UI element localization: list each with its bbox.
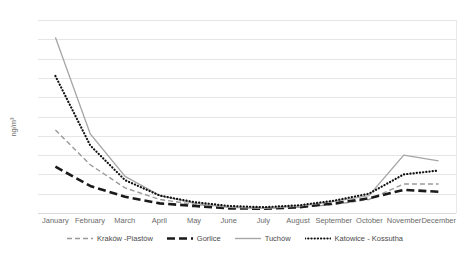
x-axis-tick-label: July [246, 215, 281, 229]
series-layer [38, 20, 456, 213]
x-axis-tick-label: March [107, 215, 142, 229]
series-line [55, 130, 438, 208]
y-axis-title: ng/m³ [9, 117, 18, 136]
x-axis-tick-label: October [352, 215, 387, 229]
x-axis-tick-label: January [38, 215, 73, 229]
series-line [55, 37, 438, 208]
legend-label: Katowice - Kossutha [335, 234, 403, 243]
x-axis-labels: JanuaryFebruaryMarchAprilMayJuneJulyAugu… [38, 215, 456, 229]
legend-label: Kraków -Piastów [97, 234, 153, 243]
legend-label: Tuchów [265, 234, 291, 243]
legend-swatch-icon [305, 235, 331, 242]
x-axis-tick-label: November [387, 215, 422, 229]
gridline [38, 213, 456, 214]
series-line [55, 76, 438, 207]
x-axis-tick-label: September [315, 215, 352, 229]
x-axis-tick-label: June [211, 215, 246, 229]
x-axis-tick-label: December [421, 215, 456, 229]
x-axis-tick-label: April [142, 215, 177, 229]
x-axis-tick-label: August [281, 215, 316, 229]
line-chart: ng/m³ JanuaryFebruaryMarchAprilMayJuneJu… [0, 0, 470, 253]
x-axis-tick-label: February [73, 215, 108, 229]
legend-item[interactable]: Gorlice [167, 234, 221, 243]
legend-swatch-icon [235, 235, 261, 242]
x-axis-tick-label: May [177, 215, 212, 229]
legend-item[interactable]: Kraków -Piastów [67, 234, 153, 243]
legend-label: Gorlice [197, 234, 221, 243]
chart-legend: Kraków -PiastówGorliceTuchówKatowice - K… [0, 234, 470, 243]
legend-swatch-icon [167, 235, 193, 242]
legend-swatch-icon [67, 235, 93, 242]
legend-item[interactable]: Katowice - Kossutha [305, 234, 403, 243]
legend-item[interactable]: Tuchów [235, 234, 291, 243]
series-line [55, 167, 438, 209]
